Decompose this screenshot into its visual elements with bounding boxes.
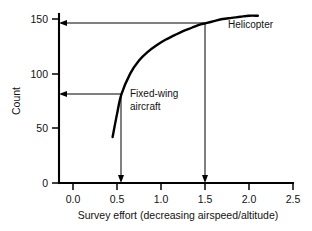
survey-effort-count-curve xyxy=(113,16,258,137)
x-axis-title: Survey effort (decreasing airspeed/altit… xyxy=(78,209,279,221)
x-tick-label-1-5: 1.5 xyxy=(198,193,213,205)
helicopter-annotation: Helicopter xyxy=(228,19,274,30)
y-tick-label-150: 150 xyxy=(30,13,48,25)
helicopter-guide-arrowhead-down xyxy=(202,175,208,183)
fixed-wing-annotation-line1: Fixed-wing xyxy=(130,88,178,99)
helicopter-guide-arrowhead-left xyxy=(59,20,67,26)
chart-figure: 150 100 50 0 0.0 0.5 1.0 1.5 2.0 2.5 Sur… xyxy=(0,0,312,231)
x-tick-label-0-5: 0.5 xyxy=(110,193,125,205)
chart-canvas: 150 100 50 0 0.0 0.5 1.0 1.5 2.0 2.5 Sur… xyxy=(0,0,312,231)
x-tick-label-2-0: 2.0 xyxy=(242,193,257,205)
x-tick-label-1-0: 1.0 xyxy=(154,193,169,205)
y-tick-label-0: 0 xyxy=(42,177,48,189)
fixed-wing-guide-arrowhead-left xyxy=(59,91,67,97)
y-tick-label-100: 100 xyxy=(30,68,48,80)
y-axis-title: Count xyxy=(10,87,22,115)
x-tick-label-2-5: 2.5 xyxy=(286,193,301,205)
y-tick-label-50: 50 xyxy=(36,122,48,134)
fixed-wing-guide-lines xyxy=(59,91,124,183)
x-tick-labels: 0.0 0.5 1.0 1.5 2.0 2.5 xyxy=(66,193,301,205)
fixed-wing-guide-arrowhead-down xyxy=(118,175,124,183)
y-tick-labels: 150 100 50 0 xyxy=(30,13,48,189)
x-tick-label-0-0: 0.0 xyxy=(66,193,81,205)
fixed-wing-annotation-line2: aircraft xyxy=(130,101,161,112)
